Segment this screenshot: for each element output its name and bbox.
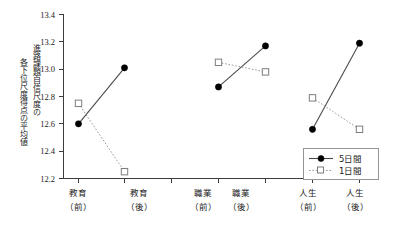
series-line-5days — [313, 43, 360, 129]
data-point-5days — [215, 84, 221, 90]
legend-marker-filled-circle — [318, 156, 324, 162]
data-point-1day — [262, 69, 268, 75]
career-confidence-line-chart: 各下位尺度得点の平均値 進路課題自信尺度の 13.4 13.2 13.0 12.… — [0, 0, 395, 229]
series-line-5days — [219, 46, 266, 87]
data-point-5days — [309, 126, 315, 132]
y-tick-label: 13.2 — [40, 37, 55, 47]
x-axis-label-sub: （前） — [65, 202, 92, 212]
data-point-1day — [215, 59, 221, 65]
legend-label-5days: 5日間 — [339, 154, 362, 164]
legend-marker-open-square — [318, 167, 324, 173]
series-line-1day — [219, 62, 266, 72]
data-point-5days — [262, 43, 268, 49]
y-tick-label: 12.8 — [40, 92, 55, 102]
y-axis-title-line1: 進路課題自信尺度の — [32, 44, 41, 116]
x-axis-label-main: 教育 — [69, 188, 87, 198]
series-line-1day — [313, 98, 360, 129]
series-line-5days — [79, 68, 125, 124]
legend-label-1day: 1日間 — [339, 166, 362, 176]
y-axis-title-line2: 各下位尺度得点の平均値 — [19, 57, 28, 147]
data-point-1day — [121, 168, 127, 174]
x-axis-label-sub: （後） — [228, 202, 255, 212]
x-axis-label-sub: （後） — [126, 202, 153, 212]
y-axis-ticks: 13.4 13.2 13.0 12.8 12.6 12.4 12.2 — [40, 10, 63, 184]
data-point-5days — [356, 40, 362, 46]
series-line-1day — [79, 103, 125, 171]
y-tick-label: 12.6 — [40, 119, 55, 129]
x-axis-label-sub: （前） — [190, 202, 217, 212]
x-axis-label-main: 人生 — [299, 188, 317, 198]
x-axis-labels: 教育 （前） 教育 （後） 職業 （前） 職業 （後） 人生 （前） 人生 （後… — [65, 188, 369, 212]
x-axis-label-main: 人生 — [346, 188, 364, 198]
data-point-5days — [121, 65, 127, 71]
x-axis-label-sub: （前） — [295, 202, 322, 212]
x-axis-label-main: 職業 — [194, 188, 212, 198]
y-tick-label: 12.4 — [40, 146, 56, 156]
x-axis-label-main: 教育 — [130, 188, 148, 198]
y-tick-label: 12.2 — [40, 174, 55, 184]
y-tick-label: 13.0 — [40, 64, 55, 74]
data-point-1day — [356, 126, 362, 132]
x-axis-label-sub: （後） — [342, 202, 369, 212]
data-point-5days — [75, 121, 81, 127]
y-axis-title: 各下位尺度得点の平均値 進路課題自信尺度の — [19, 44, 41, 147]
y-tick-label: 13.4 — [40, 10, 56, 20]
data-point-1day — [75, 100, 81, 106]
data-point-1day — [309, 95, 315, 101]
chart-svg: 各下位尺度得点の平均値 進路課題自信尺度の 13.4 13.2 13.0 12.… — [0, 0, 395, 229]
x-axis-label-main: 職業 — [232, 188, 250, 198]
legend: 5日間 1日間 — [304, 149, 379, 180]
